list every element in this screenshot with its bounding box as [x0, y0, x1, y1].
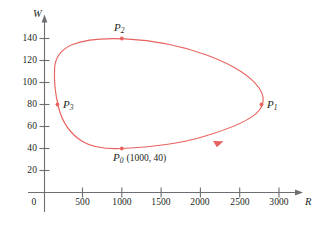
point-label-P0-coords: (1000, 40)	[123, 153, 166, 163]
y-tick-label-100: 100	[17, 78, 37, 88]
point-label-P2-sub: 2	[121, 26, 125, 35]
origin-label: 0	[28, 198, 40, 208]
point-label-P3: P3	[63, 99, 73, 110]
y-tick-label-60: 60	[17, 122, 37, 132]
x-axis-arrowhead	[295, 190, 303, 196]
point-label-P0-sub: 0	[120, 156, 124, 165]
point-label-P3-sub: 3	[70, 103, 74, 112]
x-tick-label-1000: 1000	[105, 198, 139, 208]
y-tick-label-140: 140	[17, 34, 37, 44]
x-axis	[28, 188, 303, 198]
y-tick-label-20: 20	[17, 166, 37, 176]
point-dot-P2	[120, 37, 124, 41]
point-label-P3-base: P	[63, 98, 70, 110]
point-label-P0: P0(1000, 40)	[113, 152, 166, 164]
y-tick-label-40: 40	[17, 144, 37, 154]
point-label-P1-sub: 1	[274, 103, 278, 112]
y-axis-arrowhead	[42, 15, 48, 23]
point-label-P0-base: P	[113, 151, 120, 163]
x-tick-label-2000: 2000	[183, 198, 217, 208]
point-label-P2-base: P	[114, 21, 121, 33]
x-tick-label-3000: 3000	[262, 198, 296, 208]
y-axis	[40, 15, 50, 213]
y-tick-label-120: 120	[17, 56, 37, 66]
x-tick-label-500: 500	[68, 198, 97, 208]
phase-plane-figure: 140 120 100 80 60 40 20 0 500 1000 1500 …	[0, 0, 320, 233]
flow-direction-arrow	[213, 141, 224, 147]
x-tick-label-1500: 1500	[144, 198, 178, 208]
y-axis-name: W	[33, 9, 42, 20]
x-tick-label-2500: 2500	[223, 198, 257, 208]
point-label-P2: P2	[114, 22, 124, 33]
orbit-curve-group	[54, 37, 263, 151]
point-label-P1: P1	[267, 99, 277, 110]
point-dot-P0	[120, 147, 124, 151]
point-label-P1-base: P	[267, 98, 274, 110]
point-dot-P1	[260, 103, 264, 107]
point-dot-P3	[56, 103, 60, 107]
x-axis-name: R	[305, 197, 311, 208]
orbit-curve	[54, 39, 263, 149]
y-tick-label-80: 80	[17, 100, 37, 110]
